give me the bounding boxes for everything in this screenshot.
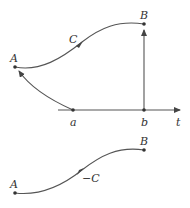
label-b: b — [141, 116, 148, 129]
point-b — [142, 108, 146, 112]
point-B-bottom — [142, 148, 146, 152]
label-A-top: A — [9, 52, 18, 65]
label-A-bottom: A — [9, 178, 18, 191]
label-a: a — [70, 116, 77, 129]
curve-minus-c — [15, 149, 144, 193]
mapping-arrow-a-to-A — [19, 71, 73, 110]
curve-c — [15, 23, 144, 68]
point-A-bottom — [13, 191, 17, 195]
label-t: t — [176, 116, 181, 129]
parametric-curve-diagram: A B C a b t B A −C — [0, 0, 190, 208]
label-C: C — [69, 33, 78, 46]
label-B-bottom: B — [139, 135, 148, 148]
label-minus-C: −C — [82, 172, 100, 185]
point-B-top — [142, 22, 146, 26]
label-B-top: B — [139, 9, 148, 22]
point-a — [71, 108, 75, 112]
point-A-top — [13, 65, 17, 69]
